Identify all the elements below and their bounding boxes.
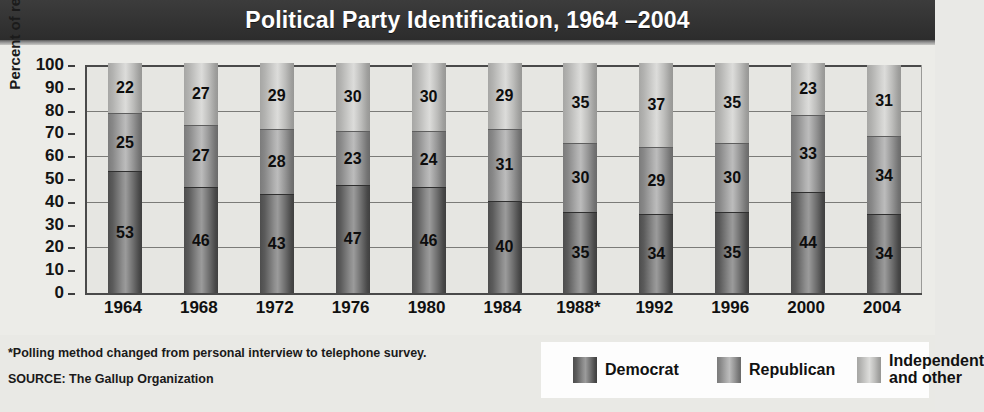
bar-value-label: 30 [420, 88, 438, 106]
title-bar: Political Party Identification, 1964 –20… [0, 0, 935, 40]
y-tick-label: 90 [30, 78, 64, 98]
legend-label-democrat: Democrat [605, 362, 679, 379]
bar-segment: 44 [791, 192, 825, 293]
bar-segment: 47 [336, 185, 370, 293]
bar-value-label: 44 [799, 234, 817, 252]
bar-value-label: 33 [799, 145, 817, 163]
bar-column[interactable]: 372934 [639, 63, 673, 293]
bar-value-label: 35 [723, 244, 741, 262]
legend-item-independent: Independent and other [857, 353, 984, 387]
bar-segment: 35 [715, 212, 749, 293]
y-tick-mark [68, 133, 75, 135]
bar-value-label: 34 [647, 245, 665, 263]
bar-value-label: 31 [496, 156, 514, 174]
bar-segment: 30 [715, 143, 749, 212]
y-tick-label: 100 [30, 55, 64, 75]
bar-value-label: 43 [268, 235, 286, 253]
bar-segment: 33 [791, 115, 825, 191]
page-title: Political Party Identification, 1964 –20… [245, 7, 689, 34]
bar-value-label: 47 [344, 230, 362, 248]
y-tick-mark [68, 270, 75, 272]
bar-value-label: 35 [572, 94, 590, 112]
bar-series-container: 2225532727462928433023473024462931403530… [87, 65, 922, 293]
bar-column[interactable]: 302347 [336, 63, 370, 293]
chart-area: Percent of registered voters 01020304050… [0, 45, 935, 335]
legend-swatch-republican-icon [717, 357, 741, 383]
bar-segment: 31 [488, 129, 522, 201]
bar-segment: 37 [639, 63, 673, 147]
bar-value-label: 30 [572, 169, 590, 187]
bar-value-label: 35 [572, 244, 590, 262]
y-tick-label: 0 [30, 283, 64, 303]
footnote-polling-method: *Polling method changed from personal in… [8, 346, 427, 360]
bar-value-label: 22 [116, 79, 134, 97]
bar-value-label: 34 [875, 167, 893, 185]
bar-value-label: 23 [799, 80, 817, 98]
chart-legend: Democrat Republican Independent and othe… [541, 342, 929, 398]
bar-segment: 27 [184, 125, 218, 188]
bar-value-label: 29 [647, 172, 665, 190]
bar-segment: 53 [108, 171, 142, 293]
y-tick-mark [68, 225, 75, 227]
legend-item-democrat: Democrat [573, 357, 679, 383]
y-tick-label: 60 [30, 146, 64, 166]
bar-column[interactable]: 222553 [108, 63, 142, 293]
y-tick-label: 80 [30, 101, 64, 121]
bar-segment: 29 [260, 63, 294, 129]
x-axis-tick-labels: 1964196819721976198019841988*19921996200… [85, 298, 920, 324]
legend-label-independent: Independent and other [889, 353, 984, 387]
bar-column[interactable]: 313434 [867, 65, 901, 293]
bar-segment: 35 [563, 212, 597, 293]
bar-segment: 25 [108, 113, 142, 171]
bar-segment: 40 [488, 201, 522, 293]
y-tick-label: 10 [30, 260, 64, 280]
legend-swatch-independent-icon [857, 357, 881, 383]
bar-segment: 46 [184, 187, 218, 293]
y-tick-mark [68, 111, 75, 113]
bar-value-label: 29 [268, 87, 286, 105]
y-tick-mark [68, 202, 75, 204]
footer-area: *Polling method changed from personal in… [0, 335, 935, 412]
bar-column[interactable]: 272746 [184, 63, 218, 293]
y-tick-label: 30 [30, 215, 64, 235]
legend-item-republican: Republican [717, 357, 835, 383]
bar-column[interactable]: 292843 [260, 63, 294, 293]
bar-segment: 43 [260, 194, 294, 293]
bar-value-label: 31 [875, 92, 893, 110]
bar-segment: 27 [184, 63, 218, 125]
bar-segment: 23 [791, 63, 825, 115]
y-tick-mark [68, 156, 75, 158]
bar-value-label: 46 [192, 232, 210, 250]
bar-value-label: 24 [420, 151, 438, 169]
y-tick-label: 20 [30, 237, 64, 257]
bar-value-label: 34 [875, 245, 893, 263]
y-tick-label: 50 [30, 169, 64, 189]
bar-value-label: 30 [344, 88, 362, 106]
bar-segment: 30 [563, 143, 597, 212]
bar-value-label: 27 [192, 147, 210, 165]
y-tick-mark [68, 293, 75, 295]
bar-value-label: 46 [420, 232, 438, 250]
x-tick-label: 2004 [837, 298, 927, 318]
bar-segment: 29 [488, 63, 522, 129]
bar-value-label: 25 [116, 134, 134, 152]
plot-area: 2225532727462928433023473024462931403530… [85, 65, 922, 295]
bar-value-label: 40 [496, 238, 514, 256]
bar-segment: 22 [108, 63, 142, 113]
footnote-source: SOURCE: The Gallup Organization [8, 372, 214, 386]
bar-column[interactable]: 353035 [563, 63, 597, 293]
y-tick-label: 40 [30, 192, 64, 212]
bar-segment: 30 [412, 63, 446, 131]
bar-value-label: 29 [496, 87, 514, 105]
bar-column[interactable]: 293140 [488, 63, 522, 293]
bar-value-label: 23 [344, 150, 362, 168]
bar-value-label: 37 [647, 96, 665, 114]
bar-column[interactable]: 302446 [412, 63, 446, 293]
bar-column[interactable]: 353035 [715, 63, 749, 293]
bar-segment: 30 [336, 63, 370, 131]
y-tick-mark [68, 88, 75, 90]
y-tick-mark [68, 65, 75, 67]
bar-segment: 34 [639, 214, 673, 293]
bar-column[interactable]: 233344 [791, 63, 825, 293]
